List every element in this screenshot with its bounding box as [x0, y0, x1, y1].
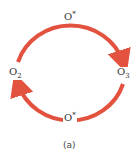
figure-caption: (a) [63, 140, 76, 150]
ozone-cycle-diagram: O* O* O2 O3 (a) [0, 0, 138, 163]
top-arc-label: O* [63, 11, 77, 22]
top-arc-arrow [18, 25, 123, 62]
bottom-arc-label: O* [63, 112, 77, 123]
o2-label: O2 [9, 67, 22, 80]
o3-label: O3 [117, 67, 130, 80]
cycle-arrows [0, 0, 138, 163]
